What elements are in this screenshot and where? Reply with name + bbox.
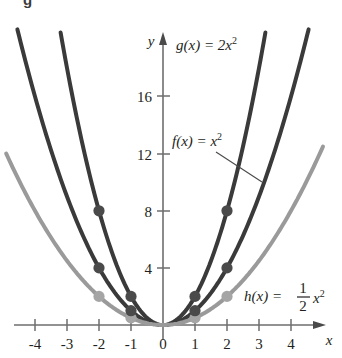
y-axis-label: y (146, 33, 155, 49)
data-point-h-pos2 (221, 291, 232, 302)
curve-label-f-text: f(x) = x (172, 133, 217, 150)
y-tick-label-12: 12 (137, 147, 152, 163)
x-tick-label--4: -4 (29, 336, 42, 352)
curve-label-h-denominator: 2 (299, 298, 307, 314)
data-point-g-neg1 (125, 291, 136, 302)
curve-label-h-exponent: 2 (320, 288, 325, 299)
x-tick-label--3: -3 (61, 336, 74, 352)
curve-label-h-numerator: 1 (299, 280, 307, 296)
data-point-h-neg2 (93, 291, 104, 302)
data-point-f-pos2 (221, 262, 232, 273)
x-tick-label-2: 2 (223, 336, 231, 352)
y-tick-labels: 4 8 12 16 (137, 89, 153, 277)
curve-label-g-text: g(x) = 2x (176, 37, 232, 54)
x-tick-label-1: 1 (191, 336, 199, 352)
curve-label-h-text: h(x) = (244, 288, 282, 305)
x-tick-labels: -4 -3 -2 -1 0 1 2 3 4 (29, 336, 296, 352)
curve-label-f-exponent: 2 (217, 131, 222, 142)
data-point-g-pos2 (221, 205, 232, 216)
x-tick-label-4: 4 (287, 336, 295, 352)
x-tick-label--1: -1 (125, 336, 138, 352)
data-point-f-neg2 (93, 262, 104, 273)
x-axis-arrowhead (313, 321, 326, 329)
data-point-f-neg1 (125, 305, 136, 316)
x-axis-label: x (325, 332, 333, 348)
svg-text:h(x) =: h(x) = (244, 288, 282, 305)
svg-text:f(x) = x2: f(x) = x2 (172, 131, 222, 150)
y-tick-label-16: 16 (137, 89, 153, 105)
curve-label-g-exponent: 2 (232, 35, 237, 46)
parabola-comparison-chart: -4 -3 -2 -1 0 1 2 3 4 4 8 12 16 y x g(x)… (0, 0, 342, 358)
data-point-f-pos1 (189, 305, 200, 316)
x-tick-label-0: 0 (159, 336, 167, 352)
data-point-g-pos1 (189, 291, 200, 302)
curve-label-g: g(x) = 2x2 (176, 35, 237, 54)
curve-label-f: f(x) = x2 (172, 131, 262, 182)
x-tick-label--2: -2 (93, 336, 106, 352)
figure-root: g (0, 0, 342, 358)
svg-text:x2: x2 (312, 288, 325, 306)
y-axis-arrowhead (159, 32, 167, 45)
y-tick-label-8: 8 (145, 204, 153, 220)
y-tick-label-4: 4 (145, 261, 153, 277)
data-point-g-neg2 (93, 205, 104, 216)
svg-text:g(x) = 2x2: g(x) = 2x2 (176, 35, 237, 54)
x-tick-label-3: 3 (255, 336, 263, 352)
